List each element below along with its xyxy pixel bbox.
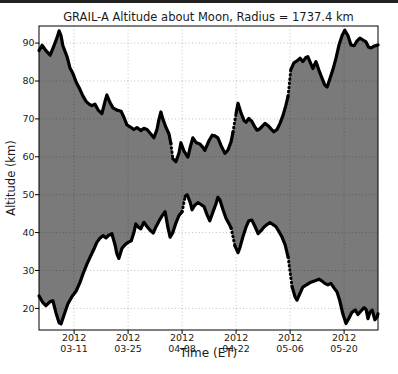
x-tick-label-year: 2012 <box>116 332 140 343</box>
y-tick-label: 90 <box>22 37 34 48</box>
altitude-band-fill <box>39 30 378 324</box>
figure: GRAIL-A Altitude about Moon, Radius = 17… <box>0 0 398 374</box>
upper-envelope-max-altitude-dotted-jump <box>171 144 173 159</box>
x-tick-label-date: 05-06 <box>276 343 304 354</box>
altitude-plot: 2030405060708090201203-11201203-25201204… <box>0 0 398 374</box>
x-tick-label-date: 04-22 <box>222 343 250 354</box>
y-tick-label: 80 <box>22 75 34 86</box>
y-tick-label: 60 <box>22 151 34 162</box>
x-tick-label-year: 2012 <box>170 332 194 343</box>
x-tick-label-date: 03-25 <box>114 343 142 354</box>
x-tick-label-year: 2012 <box>278 332 302 343</box>
y-tick-label: 20 <box>22 303 34 314</box>
x-tick-label-date: 04-08 <box>168 343 196 354</box>
x-tick-label-date: 03-11 <box>60 343 88 354</box>
y-tick-label: 70 <box>22 113 34 124</box>
x-tick-label-year: 2012 <box>224 332 248 343</box>
y-tick-label: 30 <box>22 265 34 276</box>
x-tick-label-year: 2012 <box>62 332 86 343</box>
y-tick-label: 40 <box>22 227 34 238</box>
x-tick-label-year: 2012 <box>332 332 356 343</box>
x-tick-label-date: 05-20 <box>330 343 358 354</box>
y-tick-label: 50 <box>22 189 34 200</box>
